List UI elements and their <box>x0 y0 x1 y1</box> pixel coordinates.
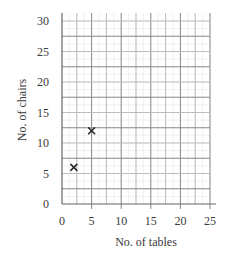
y-tick-label: 10 <box>37 136 49 150</box>
y-tick-label: 25 <box>37 45 49 59</box>
x-axis-label: No. of tables <box>115 235 177 249</box>
x-tick-label: 15 <box>145 214 157 228</box>
data-points <box>71 128 95 171</box>
y-tick-label: 0 <box>43 197 49 211</box>
x-tick-labels: 0510152025 <box>59 214 216 228</box>
y-tick-label: 30 <box>37 14 49 28</box>
grid <box>62 13 210 209</box>
data-point-x-marker <box>71 164 77 170</box>
y-tick-label: 15 <box>37 106 49 120</box>
y-tick-labels: 051015202530 <box>37 14 49 211</box>
x-tick-label: 0 <box>59 214 65 228</box>
axes <box>62 13 216 204</box>
x-tick-label: 5 <box>89 214 95 228</box>
scatter-chart: 0510152025 051015202530 No. of tables No… <box>0 0 232 267</box>
y-tick-label: 5 <box>43 167 49 181</box>
x-tick-label: 10 <box>115 214 127 228</box>
y-axis-label: No. of chairs <box>15 79 29 142</box>
x-tick-label: 20 <box>174 214 186 228</box>
x-tick-label: 25 <box>204 214 216 228</box>
y-tick-label: 20 <box>37 75 49 89</box>
